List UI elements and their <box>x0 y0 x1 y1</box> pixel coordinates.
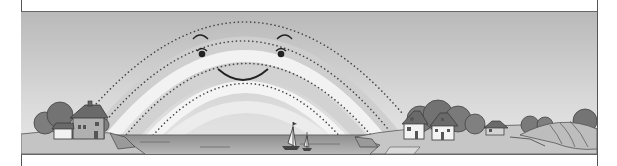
scene-svg <box>21 12 597 154</box>
right-margin-line <box>597 0 598 166</box>
left-house-small <box>52 123 74 139</box>
rainbow-illustration <box>21 11 597 155</box>
